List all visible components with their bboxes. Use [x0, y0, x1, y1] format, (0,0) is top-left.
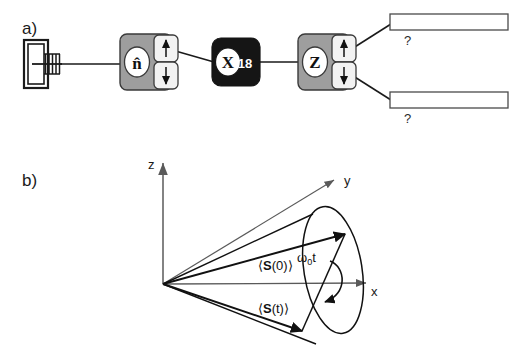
panel-b: b) z y x ⟨S(0)⟩	[22, 157, 378, 344]
detector-upper-bar[interactable]	[390, 14, 508, 30]
detector-upper[interactable]: ?	[390, 14, 508, 48]
vector-s-zero-label: ⟨S(0)⟩	[258, 258, 293, 273]
atom-source	[24, 40, 62, 88]
module-z[interactable]: Z	[298, 34, 356, 90]
z-glyph: Z	[309, 53, 320, 72]
module-x-gate[interactable]: X 18	[212, 38, 260, 86]
x-gate-glyph: X	[222, 53, 235, 72]
axis-z-label: z	[148, 157, 155, 172]
x-gate-number: 18	[238, 56, 252, 71]
cone-base-ellipse	[294, 202, 371, 337]
detector-upper-label: ?	[404, 33, 411, 48]
detector-lower-bar[interactable]	[390, 92, 508, 108]
panel-b-label: b)	[22, 171, 37, 190]
axis-y-line	[163, 180, 334, 284]
precession-arc-path	[325, 261, 342, 302]
vector-s-t: ⟨S(t)⟩	[163, 284, 302, 331]
precession-arc: ω0t	[297, 250, 342, 302]
cone-edge-lower	[163, 284, 316, 344]
vector-s-t-label: ⟨S(t)⟩	[258, 301, 289, 316]
panel-a-label: a)	[22, 19, 37, 38]
cone-outline	[163, 214, 316, 344]
module-n-hat[interactable]: n̂	[120, 34, 178, 90]
panel-a: a)	[22, 14, 508, 126]
figure-root: a)	[0, 0, 516, 358]
axis-x-label: x	[371, 284, 378, 299]
axis-y-label: y	[344, 173, 351, 188]
figure-canvas: a)	[0, 0, 516, 358]
axis-x-line	[163, 283, 366, 284]
detector-lower[interactable]: ?	[390, 92, 508, 126]
n-hat-glyph: n̂	[132, 54, 142, 73]
precession-angle-label: ω0t	[297, 250, 316, 267]
detector-lower-label: ?	[404, 111, 411, 126]
